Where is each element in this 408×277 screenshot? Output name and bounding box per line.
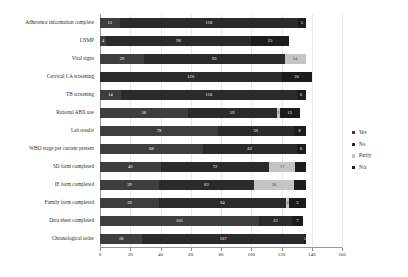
bar-value-label: 68 [149, 147, 154, 151]
bar-value-label: 29 [120, 57, 125, 61]
bar-segment-no: 107 [142, 234, 304, 245]
bar-value-label: 14 [293, 57, 298, 61]
bar-segment-no: 72 [161, 162, 270, 173]
bar-value-label: 26 [272, 183, 277, 187]
x-tick-label: 0 [99, 252, 102, 257]
bar-segment-na: 6 [297, 144, 306, 155]
bar-segment-na [295, 162, 306, 173]
bar-value-label: 63 [204, 183, 209, 187]
bar-row: 12020 [100, 72, 342, 83]
category-label: Adherence information complete [25, 20, 94, 25]
bar-row: 396326 [100, 180, 342, 191]
bar-value-label: 40 [128, 165, 133, 169]
stacked-bar-chart: Adherence information completeLNMPVital … [0, 0, 408, 277]
category-label: IE form completed [55, 182, 94, 187]
bar-segment-yes: 28 [100, 234, 142, 245]
bar-value-label: 17 [280, 165, 285, 169]
legend-item-na[interactable]: N/a [352, 165, 371, 170]
bar-segment-no: 93 [144, 54, 285, 65]
bar-value-label: 28 [119, 237, 124, 241]
legend-swatch-icon [352, 131, 355, 134]
bar-segment-no: 118 [120, 18, 298, 29]
legend-label: Yes [359, 130, 367, 135]
bar-value-label: 8 [298, 129, 300, 133]
bar-row: 68626 [100, 144, 342, 155]
bar-row: 49625 [100, 36, 342, 47]
bar-value-label: 6 [300, 93, 302, 97]
bar-value-label: 13 [288, 111, 293, 115]
bar-rows: 1311854962529931412020141166585921378508… [100, 14, 342, 248]
bar-segment-no: 120 [100, 72, 282, 83]
legend-item-partly[interactable]: Partly [352, 153, 371, 158]
bar-segment-na: 5 [289, 198, 306, 209]
bar-row: 105227 [100, 216, 342, 227]
bar-segment-na: 1 [304, 234, 306, 245]
bar-value-label: 120 [187, 75, 194, 79]
legend-label: N/a [359, 165, 367, 170]
legend-swatch-icon [352, 154, 355, 157]
x-tick-mark [312, 248, 313, 251]
x-tick-label: 120 [278, 252, 286, 257]
bar-segment-na: 7 [292, 216, 303, 227]
bar-segment-partly: 26 [254, 180, 293, 191]
legend-item-yes[interactable]: Yes [352, 130, 371, 135]
bar-row: 78508 [100, 126, 342, 137]
bar-segment-yes: 68 [100, 144, 203, 155]
bar-segment-na: 8 [294, 126, 306, 137]
chart-legend: YesNoPartlyN/a [352, 130, 371, 170]
bar-segment-no: 50 [218, 126, 294, 137]
x-tick-mark [161, 248, 162, 251]
x-tick-mark [342, 248, 343, 251]
category-label: Cervical CA screening [47, 74, 94, 79]
bar-segment-na [294, 180, 306, 191]
category-label: Rational ABX use [56, 110, 94, 115]
bar-segment-yes: 39 [100, 180, 159, 191]
bar-segment-yes: 40 [100, 162, 161, 173]
bar-segment-yes: 39 [100, 198, 159, 209]
bar-segment-na: 20 [282, 72, 312, 83]
x-tick-label: 80 [219, 252, 224, 257]
bar-row: 398425 [100, 198, 342, 209]
bar-value-label: 13 [108, 21, 113, 25]
bar-segment-na: 5 [298, 18, 306, 29]
x-tick-mark [282, 248, 283, 251]
category-label: LNMP [80, 38, 94, 43]
x-tick-mark [191, 248, 192, 251]
bar-value-label: 116 [206, 93, 213, 97]
bar-value-label: 93 [212, 57, 217, 61]
bar-segment-no: 116 [121, 90, 296, 101]
bar-value-label: 5 [301, 21, 303, 25]
bar-segment-yes: 78 [100, 126, 218, 137]
gridline [342, 14, 343, 248]
bar-value-label: 62 [247, 147, 252, 151]
bar-row: 141166 [100, 90, 342, 101]
x-tick-label: 60 [188, 252, 193, 257]
bar-segment-no: 63 [159, 180, 254, 191]
bar-value-label: 25 [268, 39, 273, 43]
bar-segment-yes: 14 [100, 90, 121, 101]
x-tick-label: 140 [308, 252, 316, 257]
bar-value-label: 39 [127, 201, 132, 205]
category-label: Chronological order [52, 236, 94, 241]
x-tick-mark [100, 248, 101, 251]
bar-value-label: 96 [176, 39, 181, 43]
bar-value-label: 107 [220, 237, 227, 241]
bar-value-label: 118 [206, 21, 213, 25]
bar-segment-na: 13 [280, 108, 300, 119]
x-tick-mark [221, 248, 222, 251]
bar-segment-no: 62 [203, 144, 297, 155]
x-tick-mark [251, 248, 252, 251]
bar-segment-no: 96 [106, 36, 251, 47]
bar-value-label: 58 [142, 111, 147, 115]
category-label: TB screening [66, 92, 94, 97]
bar-segment-no: 59 [188, 108, 277, 119]
legend-item-no[interactable]: No [352, 142, 371, 147]
bar-segment-na: 6 [297, 90, 306, 101]
bar-value-label: 72 [213, 165, 218, 169]
bar-value-label: 39 [127, 183, 132, 187]
bar-row: 131185 [100, 18, 342, 29]
bar-segment-yes: 58 [100, 108, 188, 119]
bar-value-label: 78 [157, 129, 162, 133]
category-label: Family form completed [45, 200, 94, 205]
bar-value-label: 20 [294, 75, 299, 79]
